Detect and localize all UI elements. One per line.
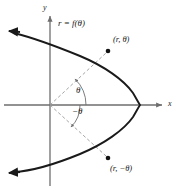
x-axis-label: x xyxy=(168,100,172,108)
point-marker-lower xyxy=(106,156,111,161)
point-marker-upper xyxy=(106,49,111,54)
radius-line-positive xyxy=(50,53,106,105)
point-label-upper: (r, θ) xyxy=(113,35,129,44)
polar-curve xyxy=(14,33,140,172)
curve-arrow-lower xyxy=(9,172,20,173)
y-axis-label: y xyxy=(43,4,47,12)
angle-label-negative: −θ xyxy=(72,107,83,116)
figure-canvas xyxy=(0,0,188,194)
polar-curve-figure: y x r = f(θ) (r, θ) (r, −θ) θ −θ xyxy=(0,0,188,194)
curve-equation-label: r = f(θ) xyxy=(58,19,85,28)
point-label-lower: (r, −θ) xyxy=(110,164,132,173)
angle-label-positive: θ xyxy=(76,86,80,95)
curve-arrow-upper xyxy=(9,31,20,32)
